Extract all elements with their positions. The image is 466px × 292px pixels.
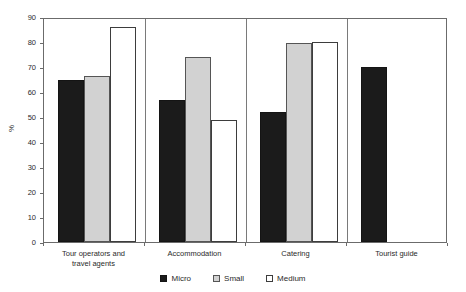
- y-axis-tick-label: 30: [0, 163, 41, 173]
- bar-micro: [361, 67, 387, 242]
- y-axis-tick-label: 80: [0, 38, 41, 48]
- x-axis-category-label: Tourist guide: [346, 249, 447, 259]
- bar-micro: [58, 80, 84, 243]
- y-axis-tick-label: 70: [0, 63, 41, 73]
- legend-item-small[interactable]: Small: [213, 274, 244, 283]
- x-axis-category-line: Accommodation: [144, 249, 245, 259]
- bar-small: [185, 57, 211, 242]
- x-axis-tick-mark: [346, 243, 347, 246]
- plot-area: [43, 18, 447, 243]
- x-axis-category-line: travel agents: [43, 259, 144, 269]
- x-axis-category-line: Tourist guide: [346, 249, 447, 259]
- x-axis-tick-mark: [144, 243, 145, 246]
- y-axis-tick-label: 0: [0, 238, 41, 248]
- legend-swatch-small-icon: [213, 275, 220, 282]
- legend-swatch-micro-icon: [160, 275, 167, 282]
- legend-item-label: Medium: [277, 274, 305, 283]
- legend-item-label: Small: [224, 274, 244, 283]
- legend-item-micro[interactable]: Micro: [160, 274, 191, 283]
- bar-medium: [312, 42, 338, 243]
- bar-micro: [260, 112, 286, 242]
- chart-legend: MicroSmallMedium: [0, 274, 466, 283]
- bar-medium: [110, 27, 136, 242]
- y-axis-tick-label: 60: [0, 88, 41, 98]
- y-axis-tick-label: 50: [0, 113, 41, 123]
- x-axis-category-label: Catering: [245, 249, 346, 259]
- x-axis-tick-mark: [447, 243, 448, 246]
- group-separator: [347, 19, 348, 242]
- group-separator: [145, 19, 146, 242]
- legend-item-medium[interactable]: Medium: [266, 274, 305, 283]
- y-axis-tick-label: 20: [0, 188, 41, 198]
- x-axis-category-label: Tour operators andtravel agents: [43, 249, 144, 269]
- legend-swatch-medium-icon: [266, 275, 273, 282]
- bar-small: [84, 76, 110, 242]
- bar-micro: [159, 100, 185, 243]
- bar-chart: % 9080706050403020100 Tour operators and…: [0, 0, 466, 292]
- legend-item-label: Micro: [171, 274, 191, 283]
- x-axis-category-line: Tour operators and: [43, 249, 144, 259]
- x-axis-category-line: Catering: [245, 249, 346, 259]
- y-axis-tick-label: 40: [0, 138, 41, 148]
- bar-small: [286, 43, 312, 242]
- x-axis-tick-mark: [245, 243, 246, 246]
- group-separator: [246, 19, 247, 242]
- y-axis-tick-label: 90: [0, 13, 41, 23]
- bar-medium: [211, 120, 237, 242]
- x-axis-tick-mark: [43, 243, 44, 246]
- y-axis-tick-label: 10: [0, 213, 41, 223]
- x-axis-category-label: Accommodation: [144, 249, 245, 259]
